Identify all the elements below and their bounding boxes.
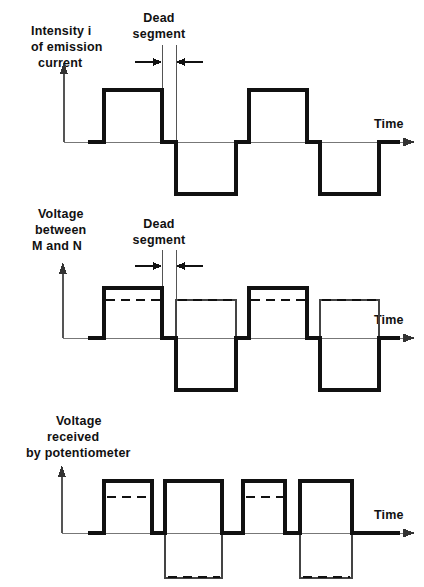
waveform-svg: Intensity i of emission current Dead seg… xyxy=(0,0,424,587)
panel-2-ylabel-line-2: between xyxy=(35,223,86,237)
panel-1-ylabel-line-1: Intensity i xyxy=(31,24,92,38)
panel-1-xlabel: Time xyxy=(374,117,404,131)
panel-2-ylabel-line-1: Voltage xyxy=(38,207,84,221)
panel-3-ylabel-line-1: Voltage xyxy=(56,414,102,428)
panel-1-ylabel-line-2: of emission xyxy=(31,40,103,54)
panel-1-dead-segment-label-line-1: Dead xyxy=(143,11,174,25)
panel-3-xlabel: Time xyxy=(374,508,404,522)
waveform-figure: Intensity i of emission current Dead seg… xyxy=(0,0,424,587)
panel-1-dead-segment-label-line-2: segment xyxy=(133,27,186,41)
panel-1-ylabel-line-3: current xyxy=(38,56,83,70)
panel-2-ylabel-line-3: M and N xyxy=(32,239,82,253)
panel-3-ylabel-line-3: by potentiometer xyxy=(26,446,131,460)
panel-2-dead-segment-label-line-2: segment xyxy=(133,233,186,247)
panel-2-dead-segment-label-line-1: Dead xyxy=(143,217,174,231)
panel-3-ylabel-line-2: received xyxy=(47,430,99,444)
